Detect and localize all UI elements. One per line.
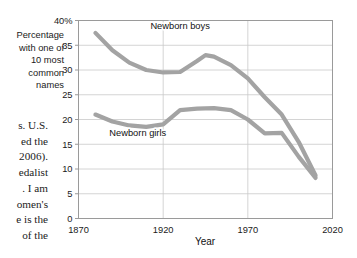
series-label: Newborn boys bbox=[150, 21, 210, 31]
y-axis-tick-label: 25 bbox=[62, 90, 72, 100]
y-axis-tick-label: 10 bbox=[62, 164, 72, 174]
y-axis-tick-labels: 0510152025303540% bbox=[54, 16, 79, 224]
chart-series-lines bbox=[95, 33, 315, 178]
y-axis-tick-label: 30 bbox=[62, 65, 72, 75]
x-axis-tick-labels: 1870192019702020 bbox=[68, 225, 343, 235]
series-line bbox=[95, 33, 315, 176]
x-axis-tick-label: 2020 bbox=[322, 225, 343, 235]
chart-gridlines bbox=[79, 21, 333, 219]
y-axis-tick-label: 0 bbox=[67, 214, 72, 224]
x-axis-tick-label: 1920 bbox=[153, 225, 174, 235]
y-axis-tick-label: 15 bbox=[62, 140, 72, 150]
chart-series-annotations: Newborn boysNewborn boysNewborn girlsNew… bbox=[109, 21, 210, 138]
series-label: Newborn girls bbox=[109, 128, 166, 138]
x-axis-tick-label: 1870 bbox=[68, 225, 89, 235]
y-axis-tick-label: 35 bbox=[62, 41, 72, 51]
x-axis-tick-label: 1970 bbox=[237, 225, 258, 235]
y-axis-tick-label: 40% bbox=[54, 16, 73, 26]
line-chart: 0510152025303540% 1870192019702020 Newbo… bbox=[0, 0, 357, 258]
y-axis-tick-label: 5 bbox=[67, 189, 72, 199]
x-axis-title: Year bbox=[195, 236, 216, 247]
y-axis-tick-label: 20 bbox=[62, 115, 72, 125]
